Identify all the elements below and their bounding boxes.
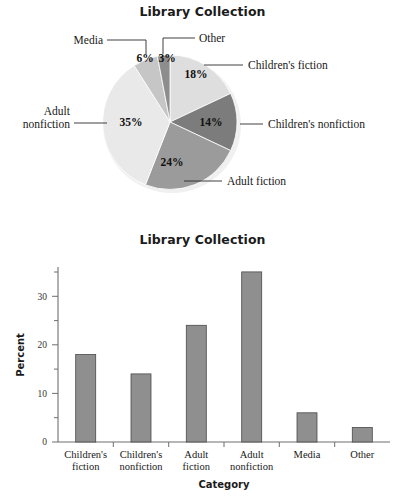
pie-value-childrens-nonfiction: 14% xyxy=(200,116,223,128)
x-label-childrens-nonfiction-line1: Children's xyxy=(120,449,163,460)
x-label-childrens-nonfiction-line2: nonfiction xyxy=(119,461,163,472)
pie-label-childrens-nonfiction: Children's nonfiction xyxy=(268,118,365,130)
x-label-childrens-fiction-line1: Children's xyxy=(64,449,107,460)
x-label-adult-fiction-line1: Adult xyxy=(184,449,208,460)
pie-chart-svg: 18% 14% 24% 35% 6% 3% Media Other Childr… xyxy=(0,0,405,220)
pie-value-other: 3% xyxy=(158,52,175,64)
pie-label-adult-fiction: Adult fiction xyxy=(227,175,286,187)
bar-chart-svg: 0 10 20 30 Percent Children's fiction Ch… xyxy=(0,220,405,503)
pie-label-adult-nonfiction-line1: Adult xyxy=(44,105,71,117)
y-tick-label-20: 20 xyxy=(38,340,48,350)
y-axis-ticks xyxy=(52,272,58,442)
pie-label-other: Other xyxy=(199,32,225,44)
x-label-adult-nonfiction-line2: nonfiction xyxy=(230,461,274,472)
x-label-media: Media xyxy=(294,449,321,460)
bar-childrens-nonfiction[interactable] xyxy=(131,374,151,442)
bar-chart-figure: Library Collection 0 10 20 30 Percent xyxy=(0,220,405,503)
pie-label-childrens-fiction: Children's fiction xyxy=(248,59,328,71)
y-tick-label-30: 30 xyxy=(38,292,48,302)
y-axis-label: Percent xyxy=(15,333,26,377)
pie-value-childrens-fiction: 18% xyxy=(185,68,208,80)
x-label-adult-fiction-line2: fiction xyxy=(183,461,211,472)
pie-value-media: 6% xyxy=(136,52,153,64)
pie-label-adult-nonfiction-line2: nonfiction xyxy=(23,118,71,130)
y-tick-label-10: 10 xyxy=(38,389,48,399)
x-category-labels: Children's fiction Children's nonfiction… xyxy=(64,449,374,472)
x-label-adult-nonfiction-line1: Adult xyxy=(240,449,264,460)
bar-other[interactable] xyxy=(352,427,372,442)
x-label-other: Other xyxy=(350,449,374,460)
pie-chart-figure: Library Collection 18% 14% 24% 35% 6% 3% xyxy=(0,0,405,220)
x-label-childrens-fiction-line2: fiction xyxy=(72,461,100,472)
y-tick-label-0: 0 xyxy=(42,437,47,447)
pie-value-adult-fiction: 24% xyxy=(161,156,184,168)
bar-adult-fiction[interactable] xyxy=(186,325,206,442)
x-axis-label: Category xyxy=(198,479,250,490)
x-axis-ticks xyxy=(113,442,334,447)
bar-childrens-fiction[interactable] xyxy=(76,355,96,443)
pie-value-adult-nonfiction: 35% xyxy=(120,116,143,128)
bar-adult-nonfiction[interactable] xyxy=(242,272,262,442)
bar-media[interactable] xyxy=(297,413,317,442)
pie-label-media: Media xyxy=(74,34,103,46)
